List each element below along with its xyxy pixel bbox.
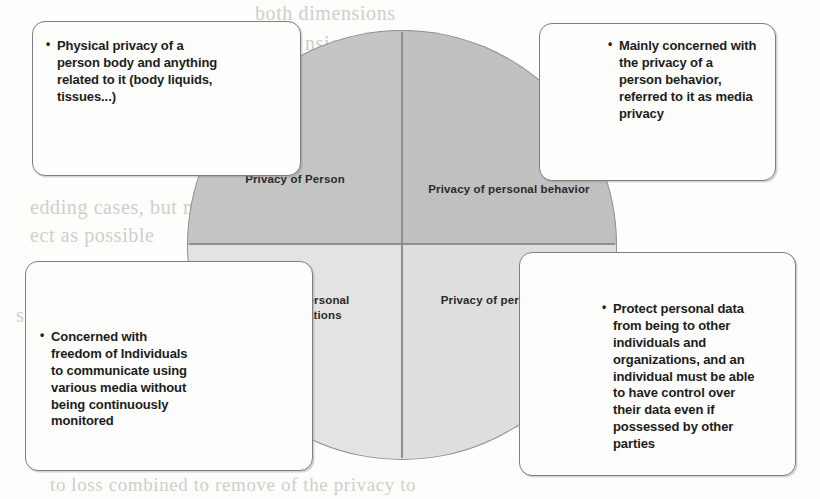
bleed-line: to loss combined to remove of the privac… [50, 474, 416, 496]
callout-text: • Physical privacy of a person body and … [46, 38, 226, 106]
bullet-icon: • [608, 37, 612, 53]
callout-text: • Mainly concerned with the privacy of a… [608, 38, 758, 122]
callout-privacy-of-personal-behavior[interactable]: • Mainly concerned with the privacy of a… [539, 23, 776, 181]
callout-privacy-of-personal-data[interactable]: • Protect personal data from being to ot… [519, 252, 796, 476]
bleed-line: ect as possible [30, 224, 155, 247]
callout-text: • Concerned with freedom of Individuals … [40, 329, 200, 430]
scanned-diagram-page: both dimensions nsional and the ation (P… [0, 0, 820, 499]
callout-privacy-of-personal-communications[interactable]: • Concerned with freedom of Individuals … [25, 261, 313, 471]
quadrant-divider-horizontal-left [189, 243, 401, 245]
callout-body: Concerned with freedom of Individuals to… [40, 329, 200, 430]
callout-privacy-of-person[interactable]: • Physical privacy of a person body and … [32, 21, 301, 176]
quadrant-label: Privacy of personal behavior [402, 182, 616, 197]
bullet-icon: • [40, 328, 44, 344]
quadrant-divider-vertical [401, 32, 403, 458]
quadrant-divider-horizontal-right [403, 243, 615, 245]
bullet-icon: • [46, 37, 50, 53]
callout-body: Protect personal data from being to othe… [602, 301, 765, 453]
callout-body: Mainly concerned with the privacy of a p… [608, 38, 758, 122]
bullet-icon: • [602, 300, 606, 316]
callout-text: • Protect personal data from being to ot… [602, 301, 765, 453]
callout-body: Physical privacy of a person body and an… [46, 38, 226, 106]
